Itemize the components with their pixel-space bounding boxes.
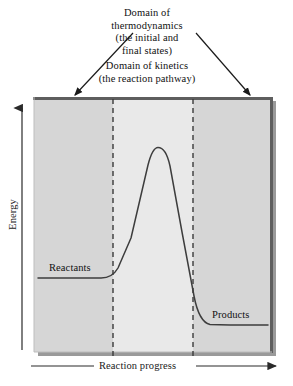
figure-canvas — [0, 0, 293, 386]
annotation-thermodynamics: Domain of thermodynamics (the initial an… — [86, 7, 208, 57]
curve-label-products: Products — [212, 309, 250, 320]
y-axis-label: Energy — [7, 189, 18, 241]
x-axis-label: Reaction progress — [96, 360, 179, 371]
annotation-kinetics: Domain of kinetics (the reaction pathway… — [76, 60, 218, 85]
figure-root: Domain of thermodynamics (the initial an… — [0, 0, 293, 386]
curve-label-reactants: Reactants — [49, 262, 91, 273]
